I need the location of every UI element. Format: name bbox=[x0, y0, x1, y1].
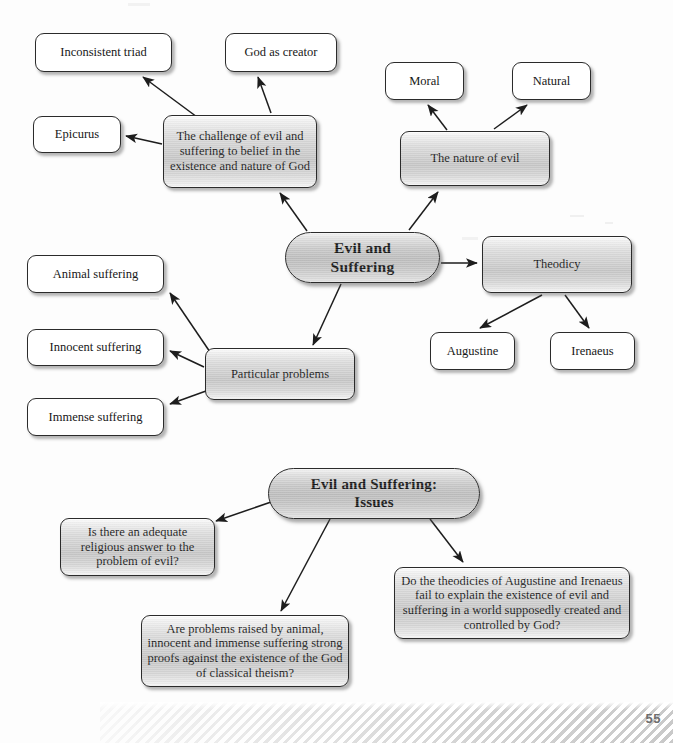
edge-center-to-challenge bbox=[280, 193, 307, 231]
node-animal-suffering[interactable]: Animal suffering bbox=[27, 255, 164, 293]
node-inconsistent-triad[interactable]: Inconsistent triad bbox=[35, 33, 172, 72]
edge-challenge-to-epicurus bbox=[126, 136, 162, 144]
node-label: Innocent suffering bbox=[33, 340, 158, 355]
footer-band-fade bbox=[100, 702, 673, 710]
edge-theodicy-to-augustine bbox=[480, 295, 542, 328]
node-natural[interactable]: Natural bbox=[512, 62, 591, 100]
edge-challenge-to-god-as-creator bbox=[258, 77, 271, 113]
edge-center-to-nature-of-evil bbox=[409, 192, 438, 230]
edge-center-to-particular-problems bbox=[313, 284, 341, 345]
edge-particular-to-animal-suffering bbox=[170, 293, 210, 352]
node-label: Theodicy bbox=[488, 257, 626, 272]
page-canvas: Inconsistent triad God as creator Epicur… bbox=[0, 0, 673, 743]
edge-nature-to-natural bbox=[494, 105, 527, 129]
node-challenge-of-evil[interactable]: The challenge of evil and suffering to b… bbox=[163, 115, 317, 188]
node-label: Do the theodicies of Augustine and Irena… bbox=[400, 574, 624, 633]
node-issue-adequate-answer[interactable]: Is there an adequate religious answer to… bbox=[60, 518, 215, 576]
node-label: Evil and Suffering:Issues bbox=[274, 476, 474, 511]
node-label: Are problems raised by animal, innocent … bbox=[147, 622, 343, 681]
node-nature-of-evil[interactable]: The nature of evil bbox=[400, 131, 550, 186]
page-number: 55 bbox=[646, 711, 661, 726]
edge-nature-to-moral bbox=[428, 105, 447, 130]
node-evil-and-suffering-issues-center[interactable]: Evil and Suffering:Issues bbox=[268, 468, 480, 519]
edge-issues-to-strong-proofs bbox=[281, 519, 330, 611]
node-label: Particular problems bbox=[211, 367, 349, 382]
edge-particular-to-immense-suffering bbox=[170, 391, 206, 404]
node-particular-problems[interactable]: Particular problems bbox=[205, 348, 355, 400]
edge-issues-to-adequate-answer bbox=[216, 501, 274, 521]
node-innocent-suffering[interactable]: Innocent suffering bbox=[27, 329, 164, 366]
edge-theodicy-to-irenaeus bbox=[565, 295, 589, 328]
node-label: God as creator bbox=[231, 45, 331, 60]
node-immense-suffering[interactable]: Immense suffering bbox=[27, 398, 164, 436]
edge-challenge-to-inconsistent-triad bbox=[143, 77, 197, 117]
node-label: Animal suffering bbox=[33, 267, 158, 282]
node-label: The nature of evil bbox=[406, 151, 544, 166]
node-label: Evil andSuffering bbox=[291, 239, 434, 276]
node-label: Irenaeus bbox=[556, 344, 629, 359]
node-label: Moral bbox=[391, 74, 458, 89]
node-irenaeus[interactable]: Irenaeus bbox=[550, 332, 635, 370]
node-label: Epicurus bbox=[39, 127, 115, 142]
edge-issues-to-theodicies-fail bbox=[430, 519, 463, 562]
node-moral[interactable]: Moral bbox=[385, 62, 464, 100]
node-evil-and-suffering-center[interactable]: Evil andSuffering bbox=[285, 232, 440, 283]
node-label: Is there an adequate religious answer to… bbox=[66, 525, 209, 569]
node-label: Immense suffering bbox=[33, 410, 158, 425]
node-label: Inconsistent triad bbox=[41, 45, 166, 60]
node-augustine[interactable]: Augustine bbox=[430, 332, 515, 370]
node-label: The challenge of evil and suffering to b… bbox=[169, 129, 311, 173]
edge-particular-to-innocent-suffering bbox=[170, 351, 204, 367]
node-theodicy[interactable]: Theodicy bbox=[482, 236, 632, 293]
node-god-as-creator[interactable]: God as creator bbox=[225, 33, 337, 72]
node-label: Augustine bbox=[436, 344, 509, 359]
node-label: Natural bbox=[518, 74, 585, 89]
node-epicurus[interactable]: Epicurus bbox=[33, 116, 121, 153]
node-issue-strong-proofs[interactable]: Are problems raised by animal, innocent … bbox=[141, 615, 349, 687]
node-issue-theodicies-fail[interactable]: Do the theodicies of Augustine and Irena… bbox=[394, 567, 630, 639]
